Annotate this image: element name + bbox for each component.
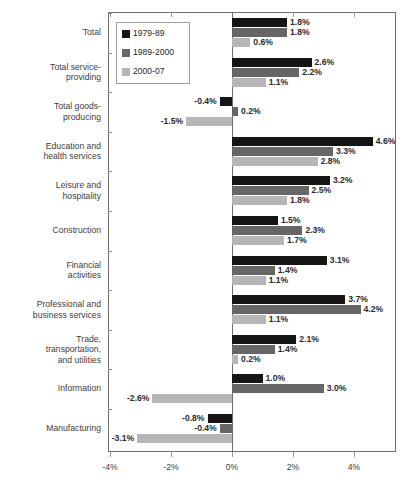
value-label-7-0: 3.7%: [348, 295, 368, 304]
category-label-line: Financial: [5, 260, 101, 271]
axis-tick-bottom-4: [354, 452, 355, 457]
chart-row: Total1.8%1.8%0.6%: [0, 18, 411, 47]
bar-9-1: [232, 384, 324, 393]
bar-8-0: [232, 335, 296, 344]
axis-tick-top-4: [354, 12, 355, 17]
row-tick: [108, 13, 112, 14]
chart-row: Construction1.5%2.3%1.7%: [0, 216, 411, 245]
category-label-9: Information: [5, 383, 101, 394]
category-label-8: Trade,transportation,and utilities: [5, 334, 101, 366]
bar-0-0: [232, 18, 287, 27]
bar-3-1: [232, 147, 333, 156]
axis-tick-bottom-1: [171, 452, 172, 457]
row-tick: [108, 132, 112, 133]
chart-row: Leisure andhospitality3.2%2.5%1.8%: [0, 176, 411, 205]
axis-tick-top-1: [171, 12, 172, 17]
chart-row: Manufacturing-0.8%-0.4%-3.1%: [0, 414, 411, 443]
category-label-1: Total service-providing: [5, 62, 101, 83]
bar-1-0: [232, 58, 312, 67]
bar-3-2: [232, 157, 318, 166]
value-label-4-1: 2.5%: [312, 186, 332, 195]
value-label-3-2: 2.8%: [321, 157, 341, 166]
row-tick: [108, 251, 112, 252]
bar-4-2: [232, 196, 287, 205]
legend: 1979-89 1989-2000 2000-07: [116, 22, 190, 84]
chart-row: Information1.0%3.0%-2.6%: [0, 374, 411, 403]
x-tick-label-1: -2%: [151, 462, 191, 472]
category-label-line: business services: [5, 310, 101, 321]
bar-2-1: [232, 107, 238, 116]
bar-9-0: [232, 374, 263, 383]
bar-4-0: [232, 176, 330, 185]
value-label-2-2: -1.5%: [0, 117, 183, 126]
category-label-line: Professional and: [5, 299, 101, 310]
value-label-1-1: 2.2%: [302, 68, 322, 77]
row-tick: [108, 211, 112, 212]
bar-6-1: [232, 266, 275, 275]
category-label-line: transportation,: [5, 344, 101, 355]
value-label-7-1: 4.2%: [364, 305, 384, 314]
bar-0-1: [232, 28, 287, 37]
category-label-line: Total service-: [5, 62, 101, 73]
bar-2-0: [220, 97, 232, 106]
value-label-1-2: 1.1%: [269, 78, 289, 87]
axis-tick-bottom-2: [232, 452, 233, 457]
value-label-0-2: 0.6%: [253, 38, 273, 47]
axis-tick-bottom-0: [110, 452, 111, 457]
category-label-5: Construction: [5, 225, 101, 236]
bar-9-2: [152, 394, 232, 403]
bar-3-0: [232, 137, 373, 146]
category-label-0: Total: [5, 27, 101, 38]
value-label-4-2: 1.8%: [290, 196, 310, 205]
row-tick: [108, 171, 112, 172]
bar-8-2: [232, 355, 238, 364]
legend-swatch-2000-07: [122, 68, 130, 76]
legend-label-2000-07: 2000-07: [133, 67, 165, 76]
bar-5-0: [232, 216, 278, 225]
x-tick-label-3: 2%: [273, 462, 313, 472]
category-label-3: Education andhealth services: [5, 141, 101, 162]
bar-10-1: [220, 424, 232, 433]
value-label-2-0: -0.4%: [0, 97, 217, 106]
legend-item-2: 2000-07: [122, 67, 165, 76]
category-label-line: Education and: [5, 141, 101, 152]
value-label-4-0: 3.2%: [333, 176, 353, 185]
value-label-8-2: 0.2%: [241, 355, 261, 364]
axis-tick-bottom-3: [293, 452, 294, 457]
bar-7-0: [232, 295, 345, 304]
value-label-3-0: 4.6%: [376, 137, 396, 146]
bar-7-1: [232, 305, 361, 314]
row-tick: [108, 369, 112, 370]
category-label-6: Financialactivities: [5, 260, 101, 281]
row-tick: [108, 53, 112, 54]
x-tick-label-2: 0%: [212, 462, 252, 472]
value-label-9-1: 3.0%: [327, 384, 347, 393]
value-label-10-1: -0.4%: [0, 424, 217, 433]
bar-5-2: [232, 236, 284, 245]
legend-label-1979-89: 1979-89: [133, 29, 165, 38]
bar-4-1: [232, 186, 309, 195]
value-label-5-1: 2.3%: [305, 226, 325, 235]
legend-item-1: 1989-2000: [122, 48, 174, 57]
chart-row: Trade,transportation,and utilities2.1%1.…: [0, 335, 411, 364]
value-label-7-2: 1.1%: [269, 315, 289, 324]
bar-1-2: [232, 78, 266, 87]
row-tick: [108, 92, 112, 93]
value-label-3-1: 3.3%: [336, 147, 356, 156]
bar-5-1: [232, 226, 302, 235]
value-label-6-0: 3.1%: [330, 256, 350, 265]
bar-7-2: [232, 315, 266, 324]
bar-8-1: [232, 345, 275, 354]
value-label-9-0: 1.0%: [266, 374, 286, 383]
category-label-line: health services: [5, 151, 101, 162]
row-tick: [108, 330, 112, 331]
bar-chart: Total1.8%1.8%0.6%Total service-providing…: [0, 0, 411, 486]
bar-10-2: [137, 434, 232, 443]
bar-6-0: [232, 256, 327, 265]
category-label-line: and utilities: [5, 355, 101, 366]
chart-row: Professional andbusiness services3.7%4.2…: [0, 295, 411, 324]
value-label-6-2: 1.1%: [269, 276, 289, 285]
value-label-0-0: 1.8%: [290, 18, 310, 27]
x-tick-label-0: -4%: [90, 462, 130, 472]
legend-swatch-1979-89: [122, 30, 130, 38]
